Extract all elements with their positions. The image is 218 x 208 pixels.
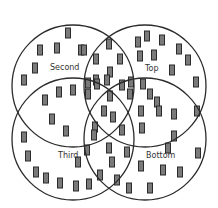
item-marker xyxy=(58,178,63,188)
item-marker xyxy=(178,167,183,177)
item-marker xyxy=(125,147,130,157)
item-marker xyxy=(22,75,27,85)
item-marker xyxy=(74,181,79,191)
item-marker xyxy=(129,77,134,87)
item-marker xyxy=(92,130,97,140)
item-marker xyxy=(152,50,157,60)
label-third: Third xyxy=(57,151,78,160)
item-marker xyxy=(141,79,146,89)
item-marker xyxy=(105,75,110,85)
item-marker xyxy=(66,28,71,38)
item-marker xyxy=(107,143,112,153)
item-marker xyxy=(38,45,43,55)
item-marker xyxy=(64,126,69,136)
item-marker xyxy=(26,151,31,161)
label-bottom: Bottom xyxy=(146,151,176,160)
item-marker xyxy=(194,77,199,87)
item-marker xyxy=(107,39,112,49)
item-marker xyxy=(139,106,144,116)
item-marker xyxy=(22,132,27,142)
item-marker xyxy=(118,54,123,64)
item-marker xyxy=(71,85,76,95)
item-marker xyxy=(148,183,153,193)
venn-diagram: Second Top Third Bottom xyxy=(0,0,218,208)
item-marker xyxy=(136,37,141,47)
item-marker xyxy=(86,89,91,99)
item-marker xyxy=(94,54,99,64)
item-marker xyxy=(87,179,92,189)
item-marker xyxy=(33,63,38,73)
item-marker xyxy=(57,87,62,97)
item-marker xyxy=(186,55,191,65)
item-marker xyxy=(172,109,177,119)
label-second: Second xyxy=(50,63,79,72)
item-marker xyxy=(161,165,166,175)
label-top: Top xyxy=(144,64,159,73)
item-marker xyxy=(177,44,182,54)
item-marker xyxy=(196,148,201,158)
item-marker xyxy=(128,89,133,99)
item-marker xyxy=(50,114,55,124)
item-marker xyxy=(82,45,87,55)
item-marker xyxy=(160,35,165,45)
item-marker xyxy=(139,161,144,171)
items-layer xyxy=(22,28,201,193)
item-marker xyxy=(138,51,143,61)
item-marker xyxy=(170,65,175,75)
item-marker xyxy=(55,43,60,53)
item-marker xyxy=(120,125,125,135)
item-marker xyxy=(127,183,132,193)
item-marker xyxy=(34,167,39,177)
item-marker xyxy=(102,106,107,116)
item-marker xyxy=(157,106,162,116)
item-marker xyxy=(145,31,150,41)
item-marker xyxy=(44,173,49,183)
item-marker xyxy=(110,157,115,167)
item-marker xyxy=(148,89,153,99)
item-marker xyxy=(43,95,48,105)
item-marker xyxy=(111,112,116,122)
item-marker xyxy=(140,123,145,133)
